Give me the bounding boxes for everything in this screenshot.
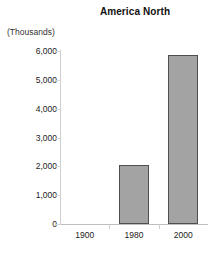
x-axis-tick-label: 1980 (109, 230, 158, 240)
y-axis-tick-mark (56, 51, 61, 52)
y-axis-tick-label: 1,000 (36, 190, 57, 200)
x-axis-line (60, 224, 208, 225)
bar-slot (109, 51, 158, 224)
y-axis-tick-label: 5,000 (36, 75, 57, 85)
y-axis-tick-mark (56, 80, 61, 81)
bar-slot (60, 51, 109, 224)
y-axis-tick-mark (56, 138, 61, 139)
plot-area (60, 51, 208, 224)
y-axis-tick-mark (56, 224, 61, 225)
y-axis-tick-mark (56, 166, 61, 167)
y-axis-tick-label: 4,000 (36, 104, 57, 114)
x-axis-tick-label: 2000 (159, 230, 208, 240)
y-axis-tick-label: 2,000 (36, 161, 57, 171)
bars-layer (60, 51, 208, 224)
y-axis-tick-label: 6,000 (36, 46, 57, 56)
y-axis-tick-mark (56, 109, 61, 110)
chart-title: America North (60, 6, 210, 17)
bar-slot (159, 51, 208, 224)
bar-2000[interactable] (168, 55, 198, 224)
x-axis-tick-mark (109, 224, 110, 229)
y-axis-tick-label: 3,000 (36, 133, 57, 143)
x-axis-tick-label: 1900 (60, 230, 109, 240)
y-axis-tick-labels: 01,0002,0003,0004,0005,0006,000 (0, 0, 57, 257)
y-axis-tick-mark (56, 195, 61, 196)
bar-1980[interactable] (119, 165, 149, 224)
x-axis-tick-mark (159, 224, 160, 229)
bar-chart: America North (Thousands) 01,0002,0003,0… (0, 0, 216, 257)
